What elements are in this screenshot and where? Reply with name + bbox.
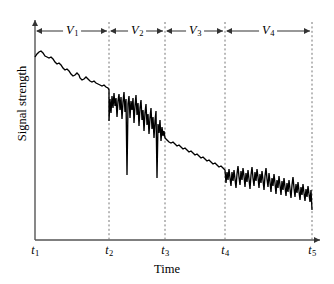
- x-axis-label: Time: [0, 262, 334, 277]
- segment-label-v4-text: V: [262, 23, 270, 37]
- x-tick-label-t5: t5: [308, 243, 316, 258]
- segment-label-v1-sub: 1: [74, 28, 78, 38]
- x-tick-label-t5-sub: 5: [312, 248, 316, 258]
- x-tick-label-t2: t2: [105, 243, 113, 258]
- x-tick-label-t3: t3: [161, 243, 169, 258]
- y-axis-label: Signal strength: [15, 44, 30, 164]
- x-tick-label-t3-sub: 3: [165, 248, 169, 258]
- x-tick-label-t5-text: t: [308, 243, 311, 257]
- segment-label-v2-sub: 2: [139, 28, 143, 38]
- segment-label-v4: V4: [259, 23, 277, 38]
- segment-label-v2-text: V: [131, 23, 139, 37]
- segment-label-v3-text: V: [189, 23, 197, 37]
- x-tick-label-t2-text: t: [105, 243, 108, 257]
- segment-boundary-lines: [109, 22, 312, 240]
- segment-label-v1: V1: [63, 23, 81, 38]
- x-tick-label-t1-text: t: [31, 243, 34, 257]
- x-tick-label-t4-sub: 4: [225, 248, 229, 258]
- segment-label-v1-text: V: [66, 23, 74, 37]
- x-tick-label-t4: t4: [221, 243, 229, 258]
- segment-label-v4-sub: 4: [270, 28, 274, 38]
- x-tick-label-t2-sub: 2: [109, 248, 113, 258]
- axes: [35, 20, 320, 240]
- signal-strength-chart: Signal strength Time V1 V2 V3 V4 t1 t2 t…: [0, 0, 334, 284]
- segment-label-v3-sub: 3: [197, 28, 201, 38]
- x-tick-label-t4-text: t: [221, 243, 224, 257]
- segment-label-v3: V3: [186, 23, 204, 38]
- x-tick-label-t1-sub: 1: [35, 248, 39, 258]
- x-tick-label-t1: t1: [31, 243, 39, 258]
- x-tick-label-t3-text: t: [161, 243, 164, 257]
- signal-trace: [35, 51, 312, 210]
- segment-label-v2: V2: [128, 23, 146, 38]
- chart-canvas: [0, 0, 334, 284]
